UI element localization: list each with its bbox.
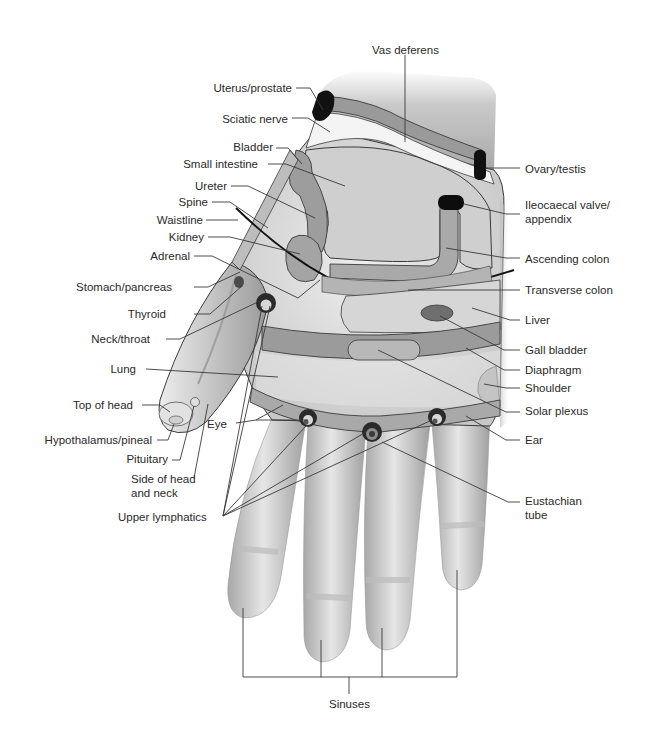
- solar-plexus-zone: [348, 340, 420, 360]
- label-solar-plexus: Solar plexus: [525, 404, 588, 418]
- gall-bladder-zone: [421, 305, 453, 321]
- label-thyroid: Thyroid: [128, 307, 166, 321]
- label-liver: Liver: [525, 313, 550, 327]
- label-top-of-head: Top of head: [73, 398, 133, 412]
- ear-point: [428, 408, 446, 426]
- label-eye: Eye: [207, 417, 227, 431]
- label-shoulder: Shoulder: [525, 381, 571, 395]
- label-ear: Ear: [525, 433, 543, 447]
- label-ovary-testis: Ovary/testis: [525, 162, 586, 176]
- little-finger: [432, 410, 490, 590]
- kidney-zone: [286, 235, 322, 282]
- label-small-intestine: Small intestine: [183, 157, 258, 171]
- eye-point: [299, 409, 317, 427]
- label-side-of-head-and-neck: Side of head and neck: [131, 472, 196, 500]
- label-waistline: Waistline: [157, 213, 203, 227]
- ileocaecal-point: [438, 195, 464, 210]
- label-upper-lymphatics: Upper lymphatics: [118, 510, 207, 524]
- pituitary-zone: [191, 398, 200, 407]
- label-bladder: Bladder: [233, 140, 273, 154]
- label-ureter: Ureter: [195, 179, 227, 193]
- label-eustachian-tube: Eustachian tube: [525, 494, 582, 522]
- label-vas-deferens: Vas deferens: [372, 43, 439, 57]
- label-ileocaecal-valve-appendix: Ileocaecal valve/ appendix: [525, 198, 610, 226]
- label-transverse-colon: Transverse colon: [525, 283, 613, 297]
- index-finger: [228, 418, 306, 618]
- fingers: [228, 410, 490, 662]
- eustachian-point: [362, 422, 382, 442]
- neck-throat-point: [256, 293, 276, 313]
- label-lung: Lung: [110, 362, 136, 376]
- label-eustachian-line2: tube: [525, 508, 582, 522]
- label-gall-bladder: Gall bladder: [525, 343, 587, 357]
- thumb: [159, 262, 268, 433]
- label-ascending-colon: Ascending colon: [525, 252, 609, 266]
- label-diaphragm: Diaphragm: [525, 363, 581, 377]
- label-eustachian-line1: Eustachian: [525, 494, 582, 508]
- ovary-testis-point: [474, 150, 486, 180]
- label-uterus-prostate: Uterus/prostate: [213, 81, 292, 95]
- label-ileocaecal-line2: appendix: [525, 212, 610, 226]
- middle-finger: [304, 424, 367, 662]
- label-kidney: Kidney: [169, 230, 204, 244]
- label-stomach-pancreas: Stomach/pancreas: [76, 280, 172, 294]
- label-sciatic-nerve: Sciatic nerve: [222, 112, 288, 126]
- label-ileocaecal-line1: Ileocaecal valve/: [525, 198, 610, 212]
- label-pituitary: Pituitary: [126, 452, 168, 466]
- label-adrenal: Adrenal: [150, 249, 190, 263]
- label-sinuses: Sinuses: [329, 697, 370, 711]
- thyroid-point: [234, 276, 244, 288]
- label-neck-throat: Neck/throat: [91, 332, 150, 346]
- label-hypothalamus-pineal: Hypothalamus/pineal: [45, 433, 152, 447]
- label-side-of-head-line2: and neck: [131, 486, 196, 500]
- hypothalamus-zone: [169, 416, 183, 424]
- label-spine: Spine: [179, 195, 208, 209]
- ring-finger: [364, 424, 430, 650]
- label-side-of-head-line1: Side of head: [131, 472, 196, 486]
